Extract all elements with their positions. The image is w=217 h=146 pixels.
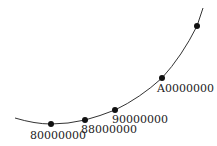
label-90000000: 90000000 (112, 113, 168, 126)
point-top (194, 23, 200, 29)
curve-diagram: 80000000 88000000 90000000 A0000000 (0, 0, 217, 146)
diagram-canvas: 80000000 88000000 90000000 A0000000 (0, 0, 217, 146)
label-80000000: 80000000 (30, 129, 86, 142)
curve (15, 8, 203, 124)
point-A0000000 (159, 75, 165, 81)
point-80000000 (48, 121, 54, 127)
label-A0000000: A0000000 (156, 82, 214, 95)
